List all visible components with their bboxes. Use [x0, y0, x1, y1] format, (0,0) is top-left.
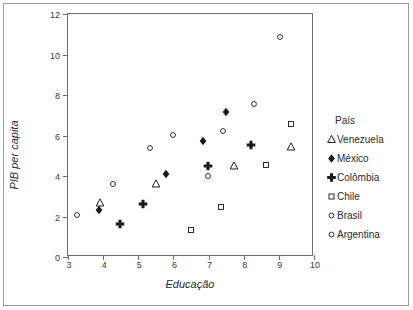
x-axis-title: Educação	[67, 278, 313, 290]
y-tick-label: 2	[55, 213, 60, 222]
x-tick: 4	[103, 255, 104, 260]
y-tick-label: 8	[55, 92, 60, 101]
x-tick-label: 10	[310, 261, 320, 270]
y-tick-label: 12	[50, 11, 60, 20]
legend-item-label: Argentina	[337, 230, 380, 240]
data-point-colômbia	[115, 220, 124, 229]
x-tick: 5	[138, 255, 139, 260]
data-point-venezuela	[151, 180, 160, 189]
scatter-points-layer	[68, 14, 312, 255]
x-tick-label: 5	[137, 261, 142, 270]
data-point-chile	[262, 161, 269, 168]
plot-area: 024681012 345678910	[67, 13, 313, 256]
legend-item-chile[interactable]: Chile	[325, 187, 411, 206]
data-point-méxico	[161, 169, 170, 178]
x-tick: 3	[68, 255, 69, 260]
legend-item-label: Venezuela	[337, 135, 384, 145]
open-triangle-icon	[325, 134, 337, 146]
x-tick-label: 7	[207, 261, 212, 270]
data-point-brasil	[146, 145, 153, 152]
open-circle-icon	[325, 210, 337, 222]
filled-diamond-icon	[325, 153, 337, 165]
y-tick-label: 10	[50, 51, 60, 60]
data-point-venezuela	[229, 162, 238, 171]
data-point-chile	[217, 203, 224, 210]
legend-item-brasil[interactable]: Brasil	[325, 206, 411, 225]
x-tick-label: 9	[277, 261, 282, 270]
data-point-méxico	[199, 136, 208, 145]
data-point-argentina	[276, 34, 283, 41]
legend: País VenezuelaMéxicoColômbiaChileBrasilA…	[325, 116, 411, 244]
y-tick-label: 4	[55, 173, 60, 182]
data-point-brasil	[219, 128, 226, 135]
data-point-argentina	[73, 212, 80, 219]
x-tick-label: 8	[242, 261, 247, 270]
x-tick: 7	[209, 255, 210, 260]
legend-items: VenezuelaMéxicoColômbiaChileBrasilArgent…	[325, 130, 411, 244]
legend-item-label: México	[337, 154, 369, 164]
x-tick-label: 6	[172, 261, 177, 270]
legend-item-label: Colômbia	[337, 173, 379, 183]
x-tick: 6	[173, 255, 174, 260]
data-point-venezuela	[287, 142, 296, 151]
data-point-colômbia	[203, 162, 212, 171]
data-point-colômbia	[138, 199, 147, 208]
legend-title: País	[335, 116, 411, 126]
y-axis-title: PIB per capita	[8, 120, 20, 189]
open-square-icon	[325, 191, 337, 203]
data-point-argentina	[204, 173, 211, 180]
y-tick-label: 0	[55, 254, 60, 263]
y-tick-label: 6	[55, 132, 60, 141]
data-point-brasil	[170, 132, 177, 139]
legend-item-méxico[interactable]: México	[325, 149, 411, 168]
x-tick: 9	[279, 255, 280, 260]
x-tick: 8	[244, 255, 245, 260]
open-circle-icon	[325, 229, 337, 241]
legend-item-colômbia[interactable]: Colômbia	[325, 168, 411, 187]
data-point-brasil	[109, 181, 116, 188]
data-point-colômbia	[247, 141, 256, 150]
data-point-brasil	[250, 100, 257, 107]
legend-item-label: Brasil	[337, 211, 362, 221]
data-point-méxico	[222, 107, 231, 116]
x-tick: 10	[314, 255, 315, 260]
x-tick-label: 4	[102, 261, 107, 270]
data-point-méxico	[94, 206, 103, 215]
legend-item-venezuela[interactable]: Venezuela	[325, 130, 411, 149]
legend-item-argentina[interactable]: Argentina	[325, 225, 411, 244]
data-point-chile	[188, 226, 195, 233]
x-tick-label: 3	[66, 261, 71, 270]
filled-plus-icon	[325, 172, 337, 184]
data-point-chile	[288, 121, 295, 128]
legend-item-label: Chile	[337, 192, 360, 202]
figure-container: PIB per capita Educação 024681012 345678…	[0, 0, 413, 310]
